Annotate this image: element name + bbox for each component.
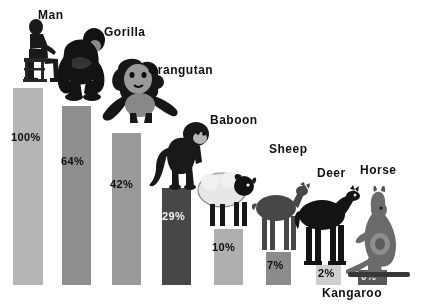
bar-baboon xyxy=(162,188,191,285)
bar-gorilla xyxy=(62,106,91,285)
bar-orangutan xyxy=(112,133,141,285)
bar-value-orangutan: 42% xyxy=(110,178,133,190)
bar-value-baboon: 29% xyxy=(162,210,185,222)
kangaroo-figure xyxy=(346,186,418,282)
species-label-kangaroo: Kangaroo xyxy=(322,286,382,300)
species-label-orangutan: Orangutan xyxy=(148,63,213,77)
brain-development-chart: 100% 64% 42% 29% 10% 7% 2% 0% xyxy=(0,0,424,304)
species-label-gorilla: Gorilla xyxy=(104,25,146,39)
bar-value-deer: 7% xyxy=(267,259,284,271)
species-label-horse: Horse xyxy=(360,163,397,177)
bar-man xyxy=(13,88,43,285)
bar-value-horse: 2% xyxy=(318,267,335,279)
bar-sheep xyxy=(214,229,243,285)
bar-value-man: 100% xyxy=(11,131,41,143)
baboon-figure xyxy=(148,118,218,192)
species-label-man: Man xyxy=(38,8,64,22)
horse-figure xyxy=(294,185,362,267)
man-figure xyxy=(12,18,66,90)
deer-figure xyxy=(250,182,312,254)
species-label-deer: Deer xyxy=(317,166,346,180)
bar-value-gorilla: 64% xyxy=(61,155,84,167)
species-label-sheep: Sheep xyxy=(269,142,308,156)
sheep-figure xyxy=(196,166,260,230)
bar-value-kangaroo: 0% xyxy=(361,271,376,282)
species-label-baboon: Baboon xyxy=(210,113,258,127)
bar-value-sheep: 10% xyxy=(212,241,235,253)
